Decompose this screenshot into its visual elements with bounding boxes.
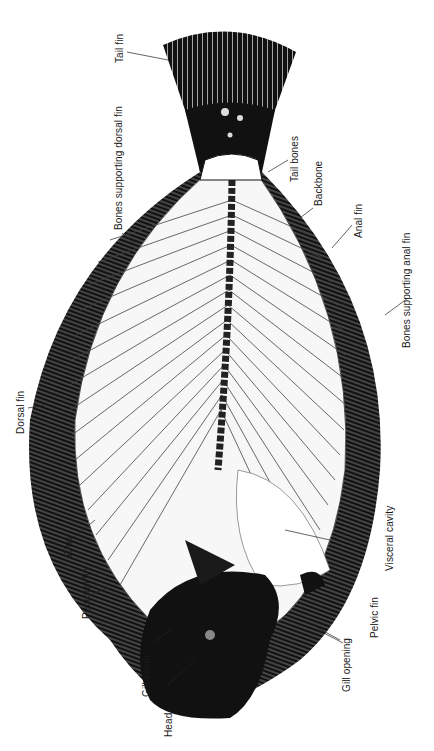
- label-visceral-cavity: Visceral cavity: [384, 506, 395, 571]
- label-tail-bones: Tail bones: [289, 136, 300, 182]
- label-gill-opening: Gill opening: [341, 638, 352, 692]
- fish-illustration: [0, 0, 434, 751]
- label-pelvic-fin: Pelvic fin: [369, 597, 380, 638]
- flatfish-skeleton-diagram: Tail fin Bones supporting dorsal fin Tai…: [0, 0, 434, 751]
- label-dorsal-fin: Dorsal fin: [15, 391, 26, 434]
- label-anal-fin: Anal fin: [353, 204, 364, 238]
- label-ribs: Ribs: [63, 537, 74, 557]
- tail-fin-shape: [163, 32, 296, 172]
- label-tail-fin: Tail fin: [114, 34, 125, 63]
- tail-bones-shape: [200, 154, 262, 180]
- label-bones-supporting-dorsal-fin: Bones supporting dorsal fin: [113, 106, 124, 230]
- label-backbone: Backbone: [313, 161, 324, 206]
- label-head: Head: [163, 713, 174, 737]
- label-pectoral-fin: Pectoral fin: [81, 568, 92, 619]
- label-gill-cover: Gill cover: [141, 654, 152, 697]
- label-bones-supporting-anal-fin: Bones supporting anal fin: [401, 233, 412, 348]
